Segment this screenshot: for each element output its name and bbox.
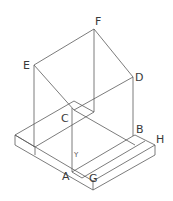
label-F: F bbox=[95, 15, 101, 28]
label-H: H bbox=[156, 133, 164, 146]
diagram-canvas: F E D C B H A G Y bbox=[0, 0, 173, 201]
wedge-edges bbox=[34, 29, 133, 147]
label-E: E bbox=[23, 59, 30, 72]
left-rib bbox=[15, 101, 94, 155]
label-A: A bbox=[62, 170, 70, 183]
base-slab bbox=[15, 110, 155, 190]
label-D: D bbox=[135, 71, 143, 84]
isometric-drawing: F E D C B H A G Y bbox=[0, 0, 173, 201]
label-B: B bbox=[136, 123, 144, 136]
label-Y: Y bbox=[73, 151, 79, 159]
label-C: C bbox=[61, 112, 69, 125]
label-G: G bbox=[89, 172, 98, 185]
